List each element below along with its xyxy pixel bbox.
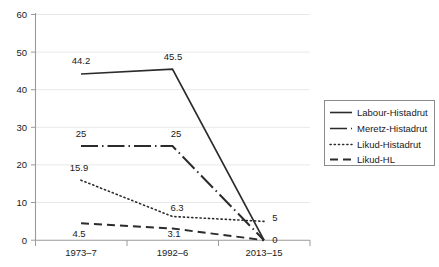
y-tick-label-50: 50 — [16, 47, 27, 58]
legend-label-meretz-histadrut: Meretz-Histadrut — [357, 123, 428, 134]
data-label-meretz-1973: 25 — [76, 128, 87, 139]
chart-svg: 60 50 40 30 20 10 0 1973–7 1992–6 2013–1… — [0, 0, 439, 267]
y-tick-label-20: 20 — [16, 159, 27, 170]
y-tick-label-60: 60 — [16, 9, 27, 20]
legend: Labour-Histadrut Meretz-Histadrut Likud-… — [325, 101, 435, 166]
data-label-labour-2013: 0 — [272, 234, 277, 245]
data-label-meretz-1992: 25 — [171, 128, 182, 139]
y-tick-label-0: 0 — [22, 235, 27, 246]
x-category-label-2: 1992–6 — [157, 247, 189, 258]
data-label-likud-histadrut-2013: 5 — [272, 212, 277, 223]
data-label-likud-histadrut-1973: 15.9 — [70, 162, 89, 173]
y-tickmarks — [31, 15, 35, 241]
data-label-labour-1973: 44.2 — [72, 55, 91, 66]
y-tick-label-10: 10 — [16, 197, 27, 208]
data-label-likud-hl-1973: 4.5 — [72, 228, 85, 239]
data-label-likud-hl-1992: 3.1 — [167, 228, 180, 239]
data-label-labour-1992: 45.5 — [164, 51, 183, 62]
y-tick-label-30: 30 — [16, 122, 27, 133]
legend-label-likud-histadrut: Likud-Histadrut — [357, 139, 421, 150]
legend-label-likud-hl: Likud-HL — [357, 154, 395, 165]
x-category-label-3: 2013–15 — [246, 247, 283, 258]
y-tick-label-40: 40 — [16, 84, 27, 95]
x-category-label-1: 1973–7 — [65, 247, 97, 258]
line-chart: 60 50 40 30 20 10 0 1973–7 1992–6 2013–1… — [0, 0, 439, 267]
data-label-likud-histadrut-1992: 6.3 — [170, 202, 183, 213]
x-tickmarks — [36, 240, 311, 246]
legend-label-labour-histadrut: Labour-Histadrut — [357, 107, 428, 118]
